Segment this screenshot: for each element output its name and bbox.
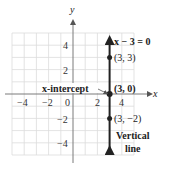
tick-x-m2: −2 — [42, 97, 53, 108]
tick-x-2: 2 — [95, 97, 100, 108]
point-3-0 — [107, 91, 113, 97]
tick-x-4: 4 — [119, 97, 124, 108]
point-3-3 — [107, 55, 112, 60]
graph: x y −4 −2 0 2 4 4 2 −2 −4 x − 3 = 0 (3, … — [0, 0, 170, 173]
tick-y-m2: −2 — [57, 114, 68, 125]
vertical-label-1: Vertical — [116, 130, 150, 141]
point-label-3-3: (3, 3) — [114, 52, 136, 64]
tick-y-m4: −4 — [57, 138, 68, 149]
equation-label: x − 3 = 0 — [114, 36, 150, 47]
tick-x-m4: −4 — [17, 97, 28, 108]
x-intercept-label: x-intercept — [42, 83, 89, 94]
vertical-label-2: line — [125, 143, 141, 154]
x-axis-label: x — [152, 88, 158, 99]
point-label-3-0: (3, 0) — [114, 83, 136, 95]
y-axis-label: y — [69, 4, 75, 15]
tick-y-2: 2 — [63, 65, 68, 76]
point-label-3-m2: (3, −2) — [114, 113, 141, 125]
tick-y-4: 4 — [63, 40, 68, 51]
tick-x-0: 0 — [65, 97, 70, 108]
point-3-m2 — [107, 116, 112, 121]
